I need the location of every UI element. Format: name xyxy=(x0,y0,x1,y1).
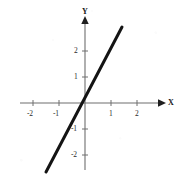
y-tick-label-neg2: -2 xyxy=(71,151,77,159)
y-tick-label-neg1: -1 xyxy=(71,125,77,133)
plot-line-series-0 xyxy=(46,27,122,172)
y-axis-label: Y xyxy=(82,8,88,16)
y-axis-arrow-icon xyxy=(81,16,88,24)
y-tick-label-pos2: 2 xyxy=(74,47,78,55)
x-axis-label: X xyxy=(168,99,174,107)
x-tick-label-pos2: 2 xyxy=(135,110,139,118)
x-tick-label-neg2: -2 xyxy=(27,110,33,118)
y-tick-label-pos1: 1 xyxy=(74,73,78,81)
x-tick-label-neg1: -1 xyxy=(53,110,59,118)
graph-figure: -2 -1 1 2 2 1 -1 -2 X Y xyxy=(0,0,177,182)
x-tick-label-pos1: 1 xyxy=(109,110,113,118)
cartesian-plot xyxy=(0,0,177,182)
x-axis-arrow-icon xyxy=(158,99,166,107)
